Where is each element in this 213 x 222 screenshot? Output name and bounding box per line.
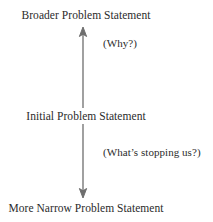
diagram-canvas: Broader Problem Statement (Why?) Initial…: [0, 0, 213, 222]
node-label-narrow: More Narrow Problem Statement: [0, 202, 172, 215]
annotation-why: (Why?): [103, 37, 137, 50]
node-label-broader: Broader Problem Statement: [0, 9, 172, 22]
node-label-initial: Initial Problem Statement: [0, 110, 172, 123]
annotation-stopping: (What’s stopping us?): [103, 146, 201, 159]
